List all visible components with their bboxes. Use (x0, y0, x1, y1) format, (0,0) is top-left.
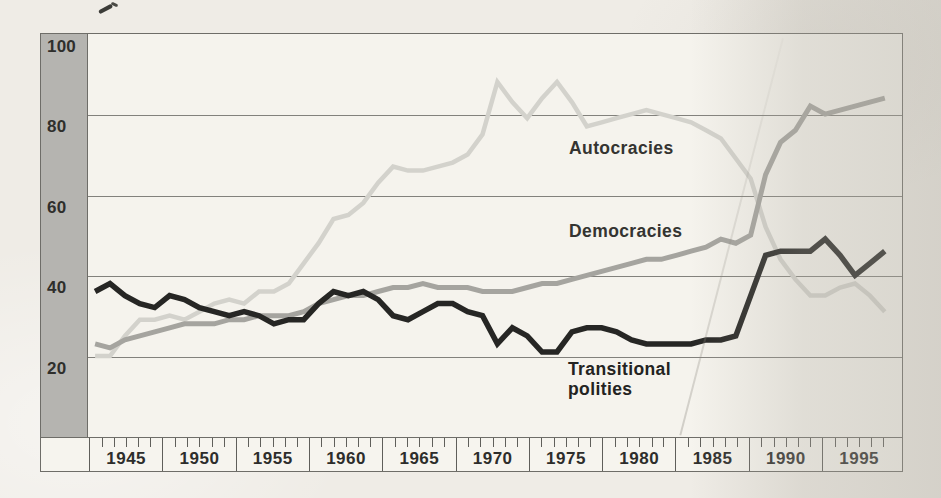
year-tick (224, 438, 225, 447)
year-tick (114, 438, 115, 447)
year-tick (358, 438, 359, 447)
year-tick (725, 438, 726, 447)
year-tick (407, 438, 408, 447)
scanned-line-chart-figure: 100 80 60 40 20 Autocracies Democracies … (0, 0, 941, 498)
y-axis-label-60: 60 (47, 198, 66, 218)
year-tick (334, 438, 335, 447)
x-axis-cell-1975: 1975 (529, 438, 602, 471)
year-tick (554, 438, 555, 447)
scan-mark-artifact (98, 2, 120, 14)
year-tick (260, 438, 261, 447)
year-tick (517, 438, 518, 447)
year-tick (578, 438, 579, 447)
x-axis-label-1955: 1955 (237, 449, 309, 469)
year-tick (713, 438, 714, 447)
year-tick (468, 438, 469, 447)
x-axis-label-1980: 1980 (603, 449, 675, 469)
x-axis-cell-1995: 1995 (822, 438, 895, 471)
x-axis-cell-1960: 1960 (309, 438, 382, 471)
x-axis-label-1995: 1995 (823, 449, 895, 469)
x-axis-label-1985: 1985 (676, 449, 748, 469)
year-tick (835, 438, 836, 447)
year-tick (444, 438, 445, 447)
year-tick (700, 438, 701, 447)
x-axis-label-1975: 1975 (530, 449, 602, 469)
y-axis-label-80: 80 (47, 117, 66, 137)
year-tick (273, 438, 274, 447)
x-axis-cell-1945: 1945 (89, 438, 162, 471)
x-axis-cell-1980: 1980 (602, 438, 675, 471)
year-tick (590, 438, 591, 447)
x-axis-cell-1990: 1990 (749, 438, 822, 471)
year-tick (285, 438, 286, 447)
year-tick (847, 438, 848, 447)
x-axis-label-1970: 1970 (457, 449, 529, 469)
year-tick (810, 438, 811, 447)
year-tick (187, 438, 188, 447)
year-tick (761, 438, 762, 447)
y-axis-band: 100 80 60 40 20 (40, 33, 88, 437)
year-tick (663, 438, 664, 447)
democracies-series-label: Democracies (569, 221, 682, 241)
x-axis-strip: 1945195019551960196519701975198019851990… (40, 437, 903, 472)
year-tick (175, 438, 176, 447)
year-tick (615, 438, 616, 447)
transitional-polities-line (95, 239, 885, 352)
year-tick (395, 438, 396, 447)
chart-lines (88, 33, 903, 437)
autocracies-series-label: Autocracies (569, 138, 674, 158)
year-tick (419, 438, 420, 447)
y-axis-label-40: 40 (47, 278, 66, 298)
year-tick (871, 438, 872, 447)
year-tick (688, 438, 689, 447)
year-tick (652, 438, 653, 447)
year-tick (627, 438, 628, 447)
x-axis-label-1950: 1950 (163, 449, 235, 469)
year-tick (566, 438, 567, 447)
year-tick (370, 438, 371, 447)
x-axis-label-1945: 1945 (90, 449, 162, 469)
x-axis-label-1990: 1990 (750, 449, 822, 469)
x-axis-label-1960: 1960 (310, 449, 382, 469)
x-axis-cell-1965: 1965 (382, 438, 455, 471)
year-tick (199, 438, 200, 447)
year-tick (480, 438, 481, 447)
year-tick (883, 438, 884, 447)
year-tick (102, 438, 103, 447)
transitional-polities-series-label: Transitional polities (568, 359, 671, 399)
year-tick (432, 438, 433, 447)
year-tick (297, 438, 298, 447)
x-axis-label-1965: 1965 (383, 449, 455, 469)
year-tick (505, 438, 506, 447)
year-tick (786, 438, 787, 447)
year-tick (774, 438, 775, 447)
year-tick (150, 438, 151, 447)
year-tick (541, 438, 542, 447)
year-tick (639, 438, 640, 447)
x-axis-cell-1970: 1970 (456, 438, 529, 471)
x-axis-cell-1955: 1955 (236, 438, 309, 471)
y-axis-label-100: 100 (47, 37, 76, 57)
year-tick (212, 438, 213, 447)
year-tick (248, 438, 249, 447)
year-tick (346, 438, 347, 447)
y-axis-label-20: 20 (47, 359, 66, 379)
year-tick (126, 438, 127, 447)
year-tick (493, 438, 494, 447)
x-axis-cell-1950: 1950 (162, 438, 235, 471)
year-tick (798, 438, 799, 447)
year-tick (321, 438, 322, 447)
x-axis-cell-1985: 1985 (675, 438, 748, 471)
year-tick (138, 438, 139, 447)
autocracies-line (95, 82, 885, 356)
year-tick (737, 438, 738, 447)
year-tick (859, 438, 860, 447)
